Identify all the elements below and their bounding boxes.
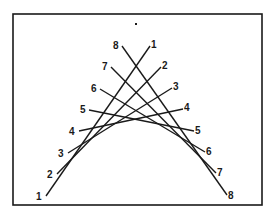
stitch-lines: [46, 46, 227, 196]
right-label-4: 4: [184, 102, 190, 113]
left-label-1: 1: [36, 191, 42, 202]
left-label-8: 8: [113, 40, 119, 51]
right-label-5: 5: [195, 125, 201, 136]
right-label-6: 6: [206, 146, 212, 157]
right-label-3: 3: [173, 81, 179, 92]
left-labels: 12345678: [36, 40, 119, 202]
stitch-line-1: [46, 46, 150, 196]
right-label-1: 1: [151, 39, 157, 50]
top-dot-marker: [135, 23, 137, 25]
left-label-7: 7: [102, 61, 108, 72]
stitch-line-2: [57, 67, 161, 174]
curve-stitching-diagram: 12345678 12345678: [0, 0, 269, 212]
left-label-6: 6: [91, 83, 97, 94]
left-label-2: 2: [47, 169, 53, 180]
stitch-line-8: [122, 46, 227, 195]
left-label-3: 3: [58, 148, 64, 159]
stitch-line-4: [79, 109, 183, 131]
left-label-4: 4: [69, 126, 75, 137]
stitch-line-3: [68, 88, 172, 153]
left-label-5: 5: [80, 104, 86, 115]
right-label-7: 7: [217, 167, 223, 178]
right-label-8: 8: [228, 190, 234, 201]
diagram-svg: 12345678 12345678: [0, 0, 269, 212]
right-label-2: 2: [162, 60, 168, 71]
